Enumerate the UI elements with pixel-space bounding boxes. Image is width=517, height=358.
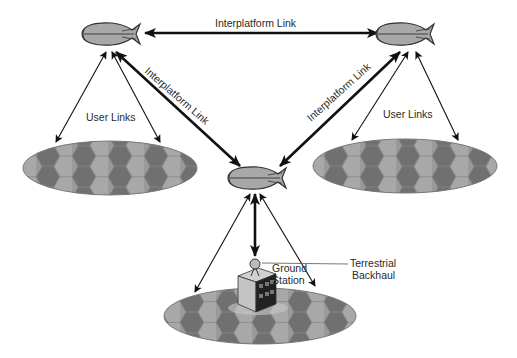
coverage-area-right <box>313 139 497 193</box>
ground-station-label-1: Ground <box>272 262 307 274</box>
interplatform-link-label-top: Interplatform Link <box>215 17 297 29</box>
coverage-area-left <box>23 141 197 195</box>
user-link-right-2 <box>416 52 458 140</box>
user-links-label-right: User Links <box>383 108 433 120</box>
airship-icon-right <box>376 23 434 45</box>
airship-icon-center <box>228 167 286 189</box>
interplatform-link-label-right: Interplatform Link <box>304 60 373 124</box>
airship-icon-left <box>82 23 140 45</box>
backhaul-label-1: Terrestrial <box>350 257 396 269</box>
user-link-left-1 <box>56 52 106 142</box>
ground-station-label-2: Station <box>272 274 305 286</box>
backhaul-label-2: Backhaul <box>352 269 395 281</box>
haps-network-diagram: Interplatform Link Interplatform Link In… <box>0 0 517 358</box>
user-links-label-left: User Links <box>86 111 136 123</box>
interplatform-link-label-left: Interplatform Link <box>143 64 213 127</box>
